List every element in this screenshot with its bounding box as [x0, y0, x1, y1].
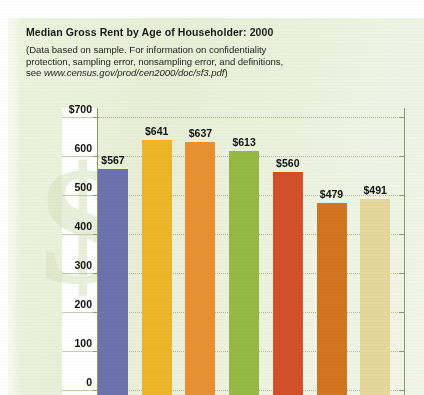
bar-value-label: $479 [308, 188, 356, 200]
bar-value-label: $491 [351, 184, 399, 196]
bar[interactable] [273, 172, 303, 395]
plot-area: $ $7006005004003002001000 $567$641$637$6… [0, 0, 424, 395]
bar-value-label: $560 [264, 157, 312, 169]
bar-series: $567$641$637$613$560$479$491 [0, 0, 424, 395]
bar[interactable] [142, 140, 172, 395]
bar-value-label: $637 [176, 127, 224, 139]
bar-value-label: $613 [220, 136, 268, 148]
bar[interactable] [360, 199, 390, 395]
bar[interactable] [185, 142, 215, 395]
bar[interactable] [317, 203, 347, 395]
bar[interactable] [98, 169, 128, 395]
bar-value-label: $567 [89, 154, 137, 166]
bar[interactable] [229, 151, 259, 395]
bar-value-label: $641 [133, 125, 181, 137]
chart-page: Median Gross Rent by Age of Householder:… [0, 0, 424, 395]
